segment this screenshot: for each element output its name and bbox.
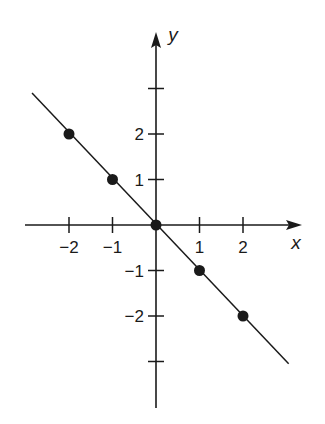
data-point xyxy=(151,220,162,231)
data-point xyxy=(194,265,205,276)
labels: −2−11221−1−2xy xyxy=(59,24,302,326)
data-point xyxy=(107,174,118,185)
data-point xyxy=(64,129,75,140)
data-point xyxy=(238,311,249,322)
x-tick-label: −1 xyxy=(103,238,122,257)
y-tick-label: 2 xyxy=(135,125,144,144)
y-tick-label: 1 xyxy=(135,171,144,190)
x-tick-label: 1 xyxy=(195,238,204,257)
coordinate-plot: −2−11221−1−2xy xyxy=(0,0,325,424)
x-axis-label: x xyxy=(290,232,302,253)
x-tick-label: 2 xyxy=(238,238,247,257)
y-axis-label: y xyxy=(166,24,179,45)
y-tick-label: −1 xyxy=(125,262,144,281)
y-tick-label: −2 xyxy=(125,307,144,326)
x-tick-label: −2 xyxy=(59,238,78,257)
